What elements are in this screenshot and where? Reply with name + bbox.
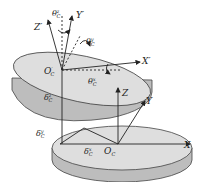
- theta-x-label: θxC: [88, 76, 97, 87]
- theta-y-label: θyC: [86, 36, 95, 47]
- z-prime-label: Z′: [33, 22, 42, 32]
- x-prime-label: X′: [141, 56, 150, 66]
- lower-disk: [52, 126, 192, 182]
- delta-x-label: δxC: [84, 146, 93, 157]
- upper-disk: [9, 42, 156, 121]
- x-label: X: [183, 140, 191, 150]
- theta-z-label: θzC: [52, 8, 60, 19]
- z-label: Z: [121, 88, 129, 98]
- y-prime-label: Y′: [76, 10, 84, 20]
- y-label: Y: [146, 96, 153, 106]
- delta-z-label: δzC: [44, 92, 52, 103]
- disk-deviation-diagram: Z′ Y′ X′ θzC θyC θxC O′C δzC Z Y X OC δy…: [0, 0, 198, 182]
- delta-y-label: δyC: [36, 128, 45, 139]
